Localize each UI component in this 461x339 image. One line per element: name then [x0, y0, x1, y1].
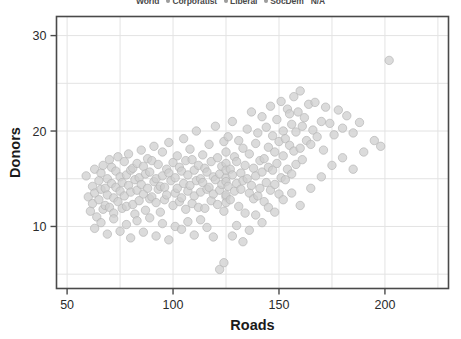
data-point [307, 140, 315, 148]
data-point [247, 108, 255, 116]
data-point [334, 106, 342, 114]
data-point [307, 184, 315, 192]
data-point [321, 103, 329, 111]
data-point [139, 228, 147, 236]
data-point [209, 233, 217, 241]
x-axis-title: Roads [230, 317, 274, 333]
data-point [232, 157, 240, 165]
data-point [97, 218, 105, 226]
data-point [228, 117, 236, 125]
scatter-chart: World Corporatist Liberal SocDem N/A 501… [0, 0, 461, 339]
data-point [141, 206, 149, 214]
data-point [343, 112, 351, 120]
data-point [317, 117, 325, 125]
data-point [288, 120, 296, 128]
data-point [192, 127, 200, 135]
data-point [298, 122, 306, 130]
data-point [258, 113, 266, 121]
data-point [330, 131, 338, 139]
data-point [232, 221, 240, 229]
data-point [179, 134, 187, 142]
data-point [296, 144, 304, 152]
data-point [243, 125, 251, 133]
data-point [213, 200, 221, 208]
data-point [82, 172, 90, 180]
data-point [137, 146, 145, 154]
data-point [152, 198, 160, 206]
x-tick-label: 200 [375, 298, 396, 312]
data-point [279, 127, 287, 135]
data-point [360, 148, 368, 156]
data-point [133, 217, 141, 225]
data-point [288, 170, 296, 178]
data-point [328, 161, 336, 169]
data-point [271, 180, 279, 188]
data-point [162, 191, 170, 199]
data-point [288, 189, 296, 197]
data-point [241, 161, 249, 169]
data-point [260, 155, 268, 163]
data-point [251, 139, 259, 147]
y-tick-label: 10 [33, 220, 47, 234]
data-point [311, 98, 319, 106]
data-point [241, 209, 249, 217]
data-point [165, 138, 173, 146]
data-point [271, 148, 279, 156]
data-point [226, 196, 234, 204]
data-point [258, 218, 266, 226]
data-point [116, 227, 124, 235]
data-point [126, 234, 134, 242]
y-axis-title: Donors [7, 127, 23, 178]
data-point [146, 168, 154, 176]
data-point [338, 124, 346, 132]
data-point [186, 145, 194, 153]
data-point [220, 259, 228, 267]
data-point [245, 150, 253, 158]
data-point [177, 194, 185, 202]
data-point [338, 154, 346, 162]
data-point [273, 159, 281, 167]
data-point [262, 178, 270, 186]
data-point [220, 207, 228, 215]
data-point [160, 183, 168, 191]
data-point [279, 152, 287, 160]
data-point [349, 129, 357, 137]
data-point [239, 238, 247, 246]
data-point [122, 220, 130, 228]
data-point [245, 226, 253, 234]
data-point [184, 217, 192, 225]
data-point [251, 211, 259, 219]
data-point [146, 214, 154, 222]
data-point [196, 216, 204, 224]
data-point [262, 123, 270, 131]
data-point [211, 122, 219, 130]
x-tick-label: 150 [269, 298, 290, 312]
data-point [235, 202, 243, 210]
x-tick-label: 100 [163, 298, 184, 312]
data-point [271, 208, 279, 216]
data-point [158, 148, 166, 156]
data-point [317, 173, 325, 181]
data-point [152, 232, 160, 240]
data-point [199, 151, 207, 159]
data-point [235, 136, 243, 144]
data-point [201, 204, 209, 212]
data-point [326, 119, 334, 127]
data-point [349, 165, 357, 173]
data-point [385, 56, 393, 64]
data-point [277, 97, 285, 105]
data-point [228, 171, 236, 179]
data-point [165, 236, 173, 244]
data-point [298, 155, 306, 163]
data-point [124, 150, 132, 158]
data-point [279, 196, 287, 204]
data-point [300, 113, 308, 121]
data-point [171, 174, 179, 182]
data-point [247, 181, 255, 189]
data-point [319, 146, 327, 154]
data-point [177, 225, 185, 233]
data-point [266, 102, 274, 110]
data-point [296, 201, 304, 209]
data-point [103, 230, 111, 238]
data-point [249, 164, 257, 172]
